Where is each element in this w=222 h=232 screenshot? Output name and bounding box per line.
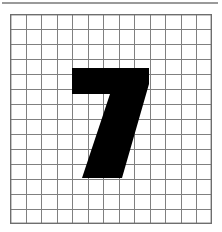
grid-lines	[10, 14, 212, 224]
figure-root	[0, 0, 222, 232]
top-horizontal-rule	[2, 2, 218, 4]
grid-panel	[10, 14, 212, 224]
